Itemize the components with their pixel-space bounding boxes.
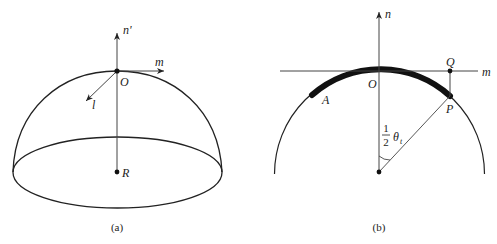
- angle-theta: θ: [393, 130, 399, 144]
- center-point-b: [377, 170, 382, 175]
- angle-numerator: 1: [383, 122, 389, 134]
- point-q: [448, 69, 453, 74]
- label-a: A: [321, 93, 330, 107]
- label-n-prime: n': [123, 23, 132, 37]
- figure-b: n m O Q P A 1 2 θ t (b): [275, 7, 492, 234]
- label-m-b: m: [482, 65, 491, 79]
- label-o-b: O: [368, 77, 377, 91]
- label-p: P: [445, 102, 454, 116]
- figure-a: n' m l O R (a): [13, 23, 222, 234]
- radius-line: [379, 96, 450, 172]
- angle-arc: [379, 156, 390, 160]
- label-r: R: [121, 166, 130, 180]
- angle-subscript: t: [400, 137, 403, 146]
- angle-denominator: 2: [383, 136, 389, 148]
- angle-label: 1 2 θ t: [382, 122, 403, 148]
- contact-arc: [312, 69, 450, 96]
- caption-b: (b): [373, 221, 386, 234]
- label-l: l: [92, 98, 96, 112]
- oblique-axis-a: [86, 71, 117, 101]
- diagram-canvas: n' m l O R (a) n m O Q P A 1: [0, 0, 497, 244]
- label-q: Q: [446, 55, 455, 69]
- label-n: n: [385, 7, 391, 21]
- center-point-r: [115, 170, 120, 175]
- label-m-a: m: [155, 55, 164, 69]
- apex-point-a: [114, 68, 119, 73]
- caption-a: (a): [111, 221, 124, 234]
- label-o-a: O: [120, 75, 129, 89]
